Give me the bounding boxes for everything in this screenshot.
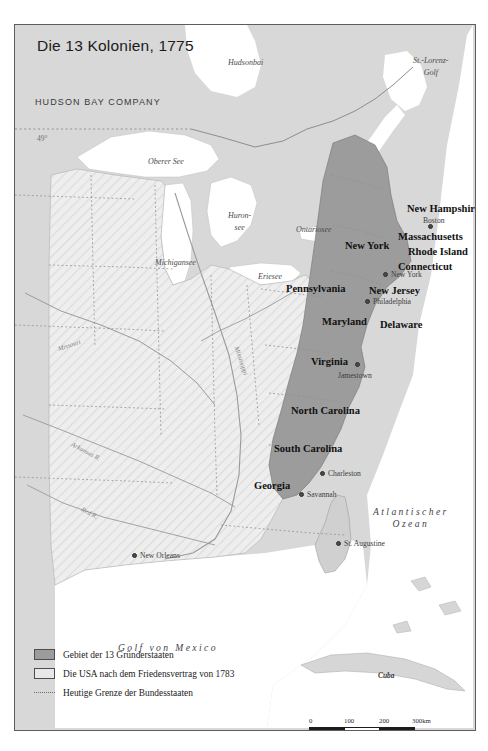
city-dot-marker <box>383 272 388 277</box>
scale-bar: 0100200300km <box>309 717 425 731</box>
scale-segment <box>310 728 345 731</box>
city-dot-marker <box>299 492 304 497</box>
city-dot-marker <box>320 471 325 476</box>
legend-label: Gebiet der 13 Gründerstaaten <box>63 650 174 660</box>
city-dot-marker <box>336 541 341 546</box>
scale-bar-graphic <box>309 727 415 731</box>
scale-tick-label: 300km <box>412 717 431 724</box>
map-frame: Die 13 Kolonien, 1775 HUDSON BAY COMPANY… <box>14 24 476 731</box>
map-geography <box>15 25 473 728</box>
legend-label: Heutige Grenze der Bundesstaaten <box>63 688 193 698</box>
legend-row: Die USA nach dem Friedensvertrag von 178… <box>34 664 234 683</box>
legend-row: Gebiet der 13 Gründerstaaten <box>34 645 234 664</box>
map-root: Die 13 Kolonien, 1775 HUDSON BAY COMPANY… <box>0 0 488 751</box>
scale-segment <box>379 728 414 731</box>
legend-label: Die USA nach dem Friedensvertrag von 178… <box>63 669 234 679</box>
city-dot-marker <box>365 299 370 304</box>
legend-row: Heutige Grenze der Bundesstaaten <box>34 683 234 702</box>
city-dot-marker <box>132 553 137 558</box>
scale-tick-label: 100 <box>344 717 354 724</box>
city-dot-marker <box>428 224 433 229</box>
legend-swatch-usa1783 <box>34 668 55 679</box>
scale-tick-label: 200 <box>379 717 389 724</box>
legend-swatch-founders <box>34 649 55 660</box>
scale-tick-labels: 0100200300km <box>309 717 425 727</box>
legend: Gebiet der 13 GründerstaatenDie USA nach… <box>34 645 234 702</box>
legend-swatch-dashline <box>34 692 55 693</box>
scale-segment <box>345 728 380 731</box>
scale-tick-label: 0 <box>309 717 312 724</box>
city-dot-marker <box>355 362 360 367</box>
